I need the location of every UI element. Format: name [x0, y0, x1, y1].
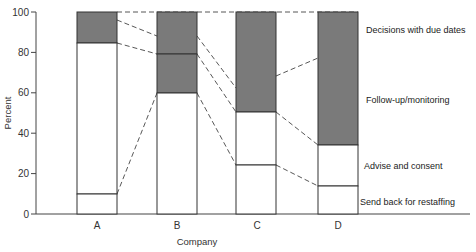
y-tick-0: 0	[23, 209, 29, 220]
segment-advise-and-consent	[236, 112, 276, 165]
category-label-a: A	[94, 220, 101, 231]
y-tick-20: 20	[18, 168, 30, 179]
y-axis-title: Percent	[2, 96, 13, 129]
segment-follow-up-monitoring	[157, 54, 197, 93]
bar-C	[236, 12, 276, 214]
bar-B	[157, 12, 197, 214]
stacked-bar-chart: 0 20 40 60 80 100 Percent	[0, 0, 476, 252]
x-axis-title: Company	[177, 236, 218, 247]
bar-A	[77, 12, 117, 214]
category-label-c: C	[253, 220, 260, 231]
y-tick-100: 100	[12, 7, 29, 18]
segment-send-back	[77, 194, 117, 214]
legend-follow-up-monitoring: Follow-up/monitoring	[366, 95, 450, 105]
y-axis: 0 20 40 60 80 100 Percent	[2, 7, 36, 220]
legend-advise-and-consent: Advise and consent	[364, 161, 443, 171]
segment-send-back	[236, 165, 276, 214]
segment-decisions-with-due-dates	[157, 12, 197, 54]
y-tick-80: 80	[18, 47, 30, 58]
y-tick-40: 40	[18, 128, 30, 139]
segment-advise-and-consent	[77, 43, 117, 194]
category-label-d: D	[334, 220, 341, 231]
segment-send-back	[318, 186, 358, 214]
y-tick-60: 60	[18, 87, 30, 98]
bar-D	[318, 12, 358, 214]
category-label-b: B	[174, 220, 181, 231]
segment-follow-up-monitoring	[236, 12, 276, 112]
segment-advise-and-consent	[157, 93, 197, 214]
segment-decisions-with-due-dates	[77, 12, 117, 43]
legend-send-back-for-restaffing: Send back for restaffing	[360, 197, 455, 207]
segment-advise-and-consent	[318, 145, 358, 186]
segment-follow-up-monitoring	[318, 12, 358, 145]
legend-decisions-with-due-dates: Decisions with due dates	[366, 25, 466, 35]
